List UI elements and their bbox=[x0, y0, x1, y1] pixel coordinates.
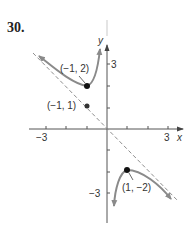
asymptote-line bbox=[33, 53, 178, 201]
point-label: (−1, 1) bbox=[47, 100, 76, 111]
graph: (−1, 2) (−1, 1) (1, −2) y x 3 −3 −3 3 bbox=[0, 0, 195, 225]
leader-line bbox=[79, 76, 85, 83]
point-label: (−1, 2) bbox=[60, 63, 89, 74]
point-1-neg2 bbox=[124, 167, 130, 173]
point-label: (1, −2) bbox=[122, 182, 151, 193]
tick-label: −3 bbox=[89, 188, 101, 199]
tick-label: 3 bbox=[111, 59, 117, 70]
tick-label: −3 bbox=[36, 132, 48, 143]
leader-line bbox=[129, 173, 133, 180]
tick-label: 3 bbox=[164, 132, 170, 143]
point-neg1-2 bbox=[84, 83, 90, 89]
x-axis-label: x bbox=[176, 132, 183, 143]
y-axis bbox=[107, 20, 110, 223]
point-neg1-1 bbox=[85, 104, 90, 109]
y-axis-label: y bbox=[97, 35, 104, 46]
